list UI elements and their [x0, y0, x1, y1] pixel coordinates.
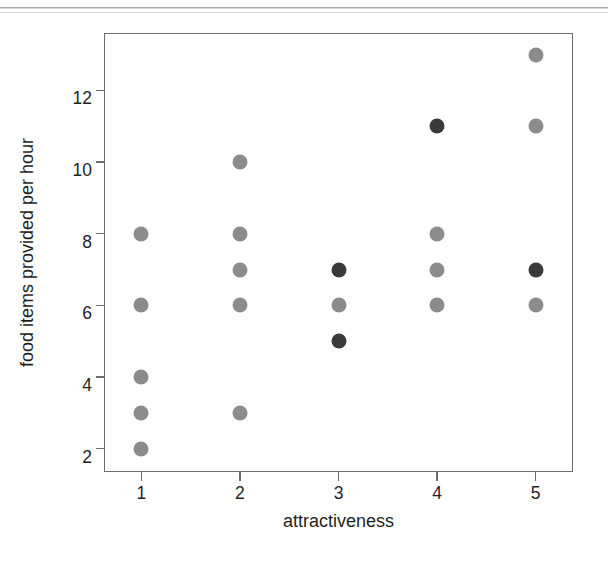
data-point-marker [232, 262, 247, 277]
y-tick-label: 2 [58, 449, 92, 467]
data-point-marker [528, 298, 543, 313]
y-tick-mark [96, 90, 104, 91]
x-tick-mark [535, 472, 536, 481]
data-point-marker [232, 405, 247, 420]
data-point-marker [232, 226, 247, 241]
data-point-marker [528, 262, 543, 277]
x-tick-mark [436, 472, 437, 481]
data-point-marker [430, 298, 445, 313]
y-tick-mark [96, 448, 104, 449]
data-point-marker [134, 370, 149, 385]
y-tick-mark [96, 161, 104, 162]
x-tick-label: 4 [417, 484, 457, 503]
y-tick-label: 12 [58, 90, 92, 108]
x-tick-label: 2 [220, 484, 260, 503]
y-tick-label: 4 [58, 377, 92, 395]
data-point-marker [134, 226, 149, 241]
plot-data-area [104, 33, 573, 472]
data-point-marker [331, 298, 346, 313]
scan-artifact-line-secondary [0, 12, 608, 13]
y-tick-mark [96, 233, 104, 234]
scatter-plot-figure: 24681012 12345 attractiveness food items… [0, 0, 608, 561]
data-point-marker [430, 262, 445, 277]
data-point-marker [331, 334, 346, 349]
x-tick-mark [239, 472, 240, 481]
y-tick-label: 8 [58, 234, 92, 252]
x-axis-title: attractiveness [104, 511, 573, 532]
data-point-marker [134, 441, 149, 456]
data-point-marker [134, 405, 149, 420]
y-tick-mark [96, 305, 104, 306]
y-tick-mark [96, 376, 104, 377]
x-tick-label: 5 [516, 484, 556, 503]
x-tick-mark [141, 472, 142, 481]
data-point-marker [528, 119, 543, 134]
data-point-marker [232, 298, 247, 313]
x-tick-mark [338, 472, 339, 481]
y-axis-title: food items provided per hour [13, 33, 41, 472]
data-point-marker [331, 262, 346, 277]
data-point-marker [430, 226, 445, 241]
data-point-marker [528, 47, 543, 62]
scan-artifact-line [0, 7, 608, 9]
data-point-marker [134, 298, 149, 313]
x-tick-label: 3 [319, 484, 359, 503]
y-tick-label: 6 [58, 305, 92, 323]
data-point-marker [430, 119, 445, 134]
y-tick-label: 10 [58, 162, 92, 180]
data-point-marker [232, 155, 247, 170]
x-tick-label: 1 [121, 484, 161, 503]
